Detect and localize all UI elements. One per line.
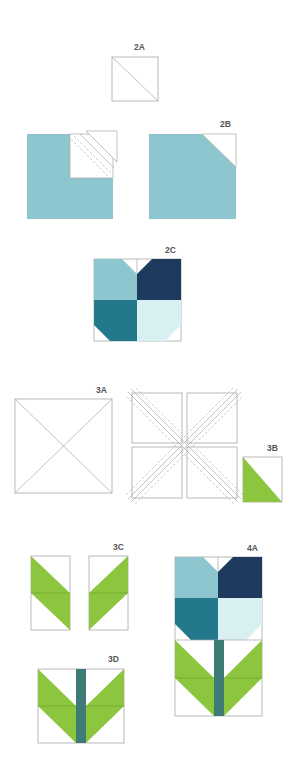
teal-quadrant (94, 300, 137, 341)
green-triangle (175, 640, 214, 678)
quilt-diagram: 2A 2B 2C 3A (0, 0, 285, 766)
dashed-stitch-line (126, 388, 233, 495)
figure-3c: 3C (31, 542, 128, 630)
diagonal-line (112, 57, 158, 101)
navy-quadrant (137, 259, 181, 300)
green-triangle (86, 706, 124, 743)
green-triangle (38, 706, 76, 743)
cut-square-top-left (132, 393, 182, 443)
green-triangle (89, 593, 128, 630)
green-triangle (243, 457, 282, 502)
dashed-stitch-line (136, 388, 243, 495)
green-triangle (31, 556, 70, 593)
figure-2b: 2B (149, 119, 236, 219)
cut-square-top-right (187, 393, 237, 443)
figure-2a: 2A (112, 42, 158, 101)
figure-3b: 3B (243, 443, 282, 502)
green-triangle (89, 556, 128, 593)
label-3d: 3D (108, 654, 119, 664)
green-triangle (86, 669, 124, 706)
label-2c: 2C (165, 245, 176, 255)
green-triangle (38, 669, 76, 706)
teal-quadrant (175, 598, 218, 640)
seam-line (131, 389, 241, 499)
pale-aqua-quadrant (218, 598, 262, 640)
label-2a: 2A (134, 42, 145, 52)
figure-3a: 3A (15, 385, 112, 493)
green-triangle (224, 640, 262, 678)
green-triangle (175, 678, 214, 716)
cut-square-bottom-right (187, 447, 237, 498)
label-3c: 3C (113, 542, 124, 552)
stem-strip (214, 640, 224, 716)
figure-3a-cut-units (126, 388, 243, 504)
label-3b: 3B (267, 443, 278, 453)
pale-aqua-quadrant (137, 300, 181, 341)
figure-4a: 4A (175, 543, 262, 716)
light-blue-quadrant (94, 259, 137, 300)
figure-2c: 2C (94, 245, 181, 341)
seam-line (128, 389, 238, 499)
label-2b: 2B (220, 119, 231, 129)
stem-strip (76, 669, 86, 743)
label-4a: 4A (247, 543, 258, 553)
green-triangle (31, 593, 70, 630)
label-3a: 3A (96, 385, 107, 395)
figure-3d: 3D (38, 654, 124, 743)
green-triangle (224, 678, 262, 716)
navy-quadrant (218, 557, 262, 598)
figure-2b-step1 (27, 131, 117, 219)
cut-square-bottom-left (132, 447, 182, 498)
light-blue-quadrant (175, 557, 218, 598)
dashed-stitch-line (135, 397, 242, 504)
dashed-stitch-line (127, 397, 234, 504)
